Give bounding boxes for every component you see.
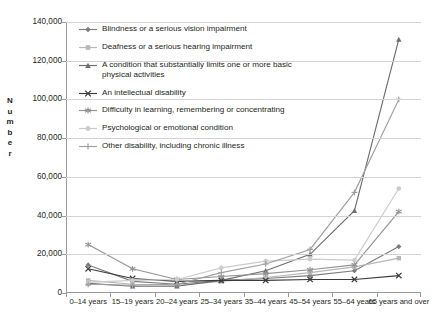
legend-item-label: Psychological or emotional condition (102, 123, 293, 133)
y-axis-title-letter: m (3, 117, 17, 128)
y-axis-tick-labels: 020,00040,00060,00080,000100,000120,0001… (16, 0, 62, 329)
square-legend-marker-icon (78, 43, 98, 52)
square-marker-icon (397, 256, 401, 260)
x-axis-tick-labels: 0–14 years15–19 years20–24 years25–34 ye… (0, 297, 441, 327)
diamond-legend-marker-icon (78, 25, 98, 34)
legend-item[interactable]: An intellectual disability (78, 88, 293, 98)
legend-item[interactable]: Difficulty in learning, remembering or c… (78, 105, 293, 115)
y-axis-tick-mark (62, 22, 66, 23)
legend-item-label: A condition that substantially limits on… (102, 60, 293, 80)
y-axis-title-letter: r (3, 149, 17, 160)
x-axis-tick-label: 65 years and over (368, 297, 430, 307)
y-axis-tick-label: 140,000 (16, 18, 62, 26)
triangle-marker-icon (352, 208, 357, 213)
y-axis-tick-mark (62, 216, 66, 217)
legend-item[interactable]: Other disability, including chronic illn… (78, 141, 293, 151)
legend-item-label: Other disability, including chronic illn… (102, 141, 293, 151)
y-axis-tick-mark (62, 177, 66, 178)
circle-marker-icon (219, 266, 224, 271)
plus-legend-marker-icon (78, 142, 98, 151)
y-axis-tick-label: 100,000 (16, 95, 62, 103)
gridline (66, 216, 421, 217)
y-axis-tick-mark (62, 61, 66, 62)
diamond-marker-icon (396, 244, 401, 249)
circle-marker-icon (352, 258, 357, 263)
circle-marker-icon (397, 186, 402, 191)
y-axis-title-letter: u (3, 107, 17, 118)
legend-item-label: An intellectual disability (102, 88, 293, 98)
y-axis-tick-label: 80,000 (16, 134, 62, 142)
y-axis-tick-label: 20,000 (16, 250, 62, 258)
square-marker-icon (86, 45, 91, 50)
y-axis-tick-mark (62, 138, 66, 139)
plus-marker-icon (218, 270, 224, 276)
legend-item[interactable]: Deafness or a serious hearing impairment (78, 42, 293, 52)
y-axis-title-letter: e (3, 138, 17, 149)
legend-item[interactable]: Psychological or emotional condition (78, 123, 293, 133)
plus-marker-icon (85, 143, 91, 149)
series-line (88, 212, 399, 280)
circle-marker-icon (308, 257, 313, 262)
gridline (66, 22, 421, 23)
y-axis-tick-label: 60,000 (16, 173, 62, 181)
circle-marker-icon (86, 126, 91, 131)
legend-item-label: Deafness or a serious hearing impairment (102, 42, 293, 52)
legend-item-label: Blindness or a serious vision impairment (102, 24, 293, 34)
circle-marker-icon (130, 278, 135, 283)
legend-item-label: Difficulty in learning, remembering or c… (102, 105, 293, 115)
y-axis-tick-label: 0 (16, 289, 62, 297)
legend-item[interactable]: A condition that substantially limits on… (78, 60, 293, 80)
y-axis-title-letter: N (3, 96, 17, 107)
y-axis-title-letter: b (3, 128, 17, 139)
y-axis-tick-label: 40,000 (16, 212, 62, 220)
chart-legend: Blindness or a serious vision impairment… (78, 24, 293, 159)
y-axis-title: Number (3, 96, 17, 159)
y-axis-tick-mark (62, 99, 66, 100)
y-axis-tick-label: 120,000 (16, 57, 62, 65)
triangle-legend-marker-icon (78, 61, 98, 70)
circle-legend-marker-icon (78, 124, 98, 133)
circle-marker-icon (175, 277, 180, 282)
disability-by-age-line-chart: Number 020,00040,00060,00080,000100,0001… (0, 0, 441, 329)
gridline (66, 177, 421, 178)
asterisk-marker-icon (85, 242, 91, 248)
asterisk-legend-marker-icon (78, 106, 98, 115)
legend-item[interactable]: Blindness or a serious vision impairment (78, 24, 293, 34)
triangle-marker-icon (396, 37, 401, 42)
y-axis-tick-mark (62, 254, 66, 255)
diamond-marker-icon (85, 27, 90, 32)
x-legend-marker-icon (78, 89, 98, 98)
gridline (66, 254, 421, 255)
